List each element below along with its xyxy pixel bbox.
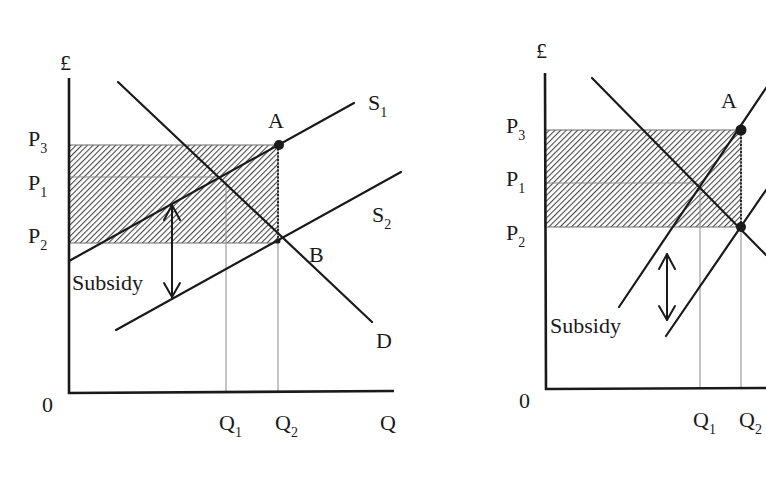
point-a-label: A [721, 88, 737, 113]
axes [545, 73, 766, 389]
quantity-label-q2: Q2 [275, 410, 298, 440]
y-axis-label: £ [60, 50, 71, 75]
price-label-p3: P3 [28, 126, 47, 156]
origin-label: 0 [42, 392, 53, 417]
subsidy-cost-area [69, 145, 278, 243]
curve-label-d: D [376, 328, 392, 353]
price-label-p1: P1 [506, 166, 525, 196]
point-b-label: B [309, 242, 324, 267]
point-b-marker [276, 239, 281, 244]
y-axis-label: £ [536, 38, 547, 63]
quantity-label-q1: Q1 [219, 410, 242, 440]
curve-label-s1: S1 [368, 90, 387, 120]
quantity-label-q1: Q1 [693, 407, 716, 437]
price-label-p3: P3 [506, 113, 525, 143]
subsidy-arrow [659, 254, 675, 320]
subsidy-label: Subsidy [550, 313, 621, 338]
quantity-label-q2: Q2 [739, 407, 762, 437]
point-a-marker [274, 140, 284, 150]
price-label-p2: P2 [506, 220, 525, 250]
origin-label: 0 [519, 388, 530, 413]
subsidy-cost-area [545, 130, 741, 227]
right-diagram: £ P3 P1 P2 Subsidy 0 Q1 Q2 A [506, 38, 766, 437]
point-a-label: A [268, 108, 284, 133]
price-label-p2: P2 [28, 223, 47, 253]
price-label-p1: P1 [28, 170, 47, 200]
point-a-marker [736, 125, 747, 136]
curve-label-s2: S2 [372, 202, 391, 232]
subsidy-diagrams: £ P3 P1 P2 Subsidy 0 Q1 Q2 Q A B S1 S2 D [0, 0, 766, 480]
subsidy-label: Subsidy [72, 270, 143, 295]
point-b-marker [736, 222, 746, 232]
left-diagram: £ P3 P1 P2 Subsidy 0 Q1 Q2 Q A B S1 S2 D [28, 50, 401, 440]
x-axis-label: Q [380, 410, 396, 435]
